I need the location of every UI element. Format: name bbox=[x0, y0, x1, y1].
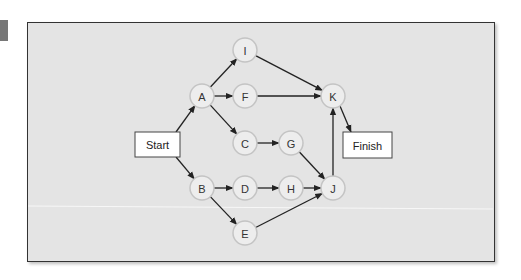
activity-node-g: G bbox=[279, 131, 303, 155]
activity-node-label: J bbox=[330, 183, 336, 195]
activity-node-h: H bbox=[279, 176, 303, 200]
finish-box: Finish bbox=[343, 132, 392, 158]
activity-node-label: H bbox=[287, 183, 295, 195]
activity-node-label: D bbox=[241, 183, 249, 195]
activity-node-d: D bbox=[233, 176, 257, 200]
start-box: Start bbox=[135, 132, 180, 157]
activity-node-label: A bbox=[198, 91, 206, 103]
activity-node-e: E bbox=[233, 221, 257, 245]
activity-node-label: F bbox=[242, 91, 249, 103]
activity-node-f: F bbox=[233, 84, 257, 108]
edge-k-to-finish bbox=[340, 106, 351, 132]
activity-node-i: I bbox=[233, 38, 257, 62]
activity-node-label: K bbox=[329, 91, 337, 103]
start-label: Start bbox=[146, 139, 169, 151]
edges-layer bbox=[176, 56, 351, 228]
activity-node-j: J bbox=[321, 176, 345, 200]
network-diagram: StartFinishIAFKCGBDHJE bbox=[0, 0, 521, 280]
nodes-layer: StartFinishIAFKCGBDHJE bbox=[135, 38, 392, 245]
edge-i-to-k bbox=[256, 56, 323, 91]
activity-node-b: B bbox=[190, 176, 214, 200]
activity-node-label: C bbox=[241, 138, 249, 150]
activity-node-a: A bbox=[190, 84, 214, 108]
edge-a-to-i bbox=[210, 59, 237, 87]
edge-g-to-j bbox=[299, 152, 325, 179]
activity-node-k: K bbox=[321, 84, 345, 108]
finish-label: Finish bbox=[353, 140, 382, 152]
activity-node-label: I bbox=[243, 45, 246, 57]
edge-a-to-c bbox=[210, 105, 237, 134]
activity-node-label: B bbox=[198, 183, 205, 195]
activity-node-label: G bbox=[287, 138, 296, 150]
activity-node-c: C bbox=[233, 131, 257, 155]
activity-node-label: E bbox=[241, 228, 248, 240]
edge-start-to-b bbox=[176, 157, 194, 179]
edge-start-to-a bbox=[176, 106, 195, 132]
edge-b-to-e bbox=[210, 197, 236, 225]
